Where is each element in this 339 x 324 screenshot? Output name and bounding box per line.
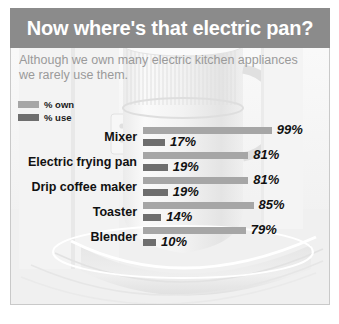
legend-swatch-own bbox=[18, 101, 39, 108]
bar-own bbox=[143, 127, 272, 134]
bar-use bbox=[143, 214, 161, 221]
category-label: Drip coffee maker bbox=[10, 180, 137, 194]
bar-value-own: 81% bbox=[253, 147, 279, 162]
bar-value-own: 79% bbox=[251, 222, 277, 237]
subtitle-text: Although we own many electric kitchen ap… bbox=[19, 53, 309, 83]
chart-row: Electric frying pan81%19% bbox=[10, 151, 330, 176]
legend-label-own: % own bbox=[44, 99, 74, 110]
bar-value-own: 99% bbox=[277, 122, 303, 137]
chart-legend: % own % use bbox=[18, 99, 74, 125]
bar-own bbox=[143, 202, 254, 209]
bar-chart: Mixer99%17%Electric frying pan81%19%Drip… bbox=[10, 126, 330, 286]
bar-use bbox=[143, 239, 156, 246]
bar-value-use: 14% bbox=[166, 209, 192, 224]
bar-value-use: 17% bbox=[170, 134, 196, 149]
legend-item-use: % use bbox=[18, 112, 74, 123]
bar-use bbox=[143, 139, 165, 146]
chart-row: Blender79%10% bbox=[10, 226, 330, 251]
legend-item-own: % own bbox=[18, 99, 74, 110]
category-label: Electric frying pan bbox=[10, 155, 137, 169]
bar-use bbox=[143, 189, 168, 196]
bar-value-use: 10% bbox=[161, 234, 187, 249]
bar-value-own: 85% bbox=[259, 197, 285, 212]
bar-own bbox=[143, 177, 248, 184]
category-label: Toaster bbox=[10, 205, 137, 219]
legend-label-use: % use bbox=[44, 112, 71, 123]
category-label: Mixer bbox=[10, 130, 137, 144]
bar-own bbox=[143, 152, 248, 159]
bar-value-use: 19% bbox=[173, 159, 199, 174]
infographic-root: Now where's that electric pan? Although … bbox=[0, 0, 339, 324]
page-title: Now where's that electric pan? bbox=[27, 17, 314, 40]
header-band: Now where's that electric pan? bbox=[10, 8, 330, 48]
category-label: Blender bbox=[10, 230, 137, 244]
bar-value-use: 19% bbox=[173, 184, 199, 199]
chart-row: Mixer99%17% bbox=[10, 126, 330, 151]
bar-value-own: 81% bbox=[253, 172, 279, 187]
bar-use bbox=[143, 164, 168, 171]
legend-swatch-use bbox=[18, 114, 39, 121]
chart-row: Toaster85%14% bbox=[10, 201, 330, 226]
bar-own bbox=[143, 227, 246, 234]
